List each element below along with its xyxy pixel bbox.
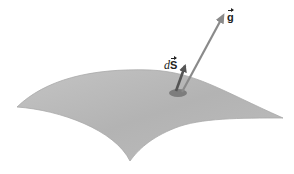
g-vector-arrow — [182, 16, 223, 92]
vector-g: g — [227, 12, 234, 23]
curved-surface — [17, 70, 283, 161]
field-label: g — [227, 12, 234, 23]
vector-s: S — [170, 60, 177, 71]
area-element-label: dS — [164, 60, 177, 71]
surface-diagram — [0, 0, 294, 174]
area-element-patch — [169, 89, 187, 97]
